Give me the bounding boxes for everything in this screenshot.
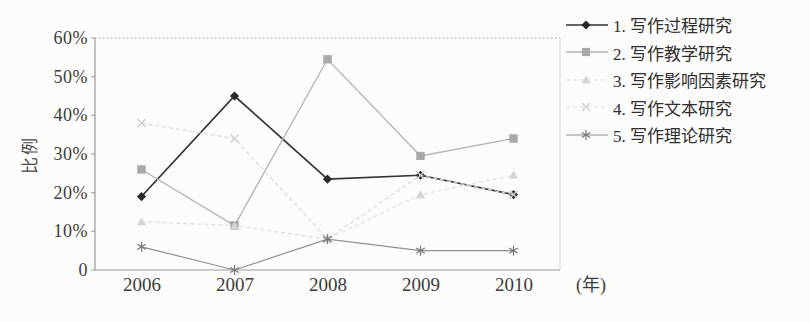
legend-item-3: 3. 写作影响因素研究 bbox=[564, 71, 810, 88]
x-tick-2008: 2008 bbox=[296, 274, 360, 296]
x-tick-2010: 2010 bbox=[482, 274, 546, 296]
y-tick-0: 0 bbox=[36, 261, 88, 279]
legend: 1. 写作过程研究 2. 写作教学研究 3. 写作影响因素研究 4. 写作文本研… bbox=[564, 16, 810, 154]
scanned-figure: 60% 50% 40% 30% 20% 10% 0 2006 2007 2008… bbox=[0, 0, 810, 322]
y-tick-40: 40% bbox=[36, 106, 88, 124]
legend-item-2: 2. 写作教学研究 bbox=[564, 44, 810, 61]
legend-item-5: 5. 写作理论研究 bbox=[564, 126, 810, 143]
y-tick-30: 30% bbox=[36, 145, 88, 163]
y-tick-50: 50% bbox=[36, 68, 88, 86]
legend-label-5: 5. 写作理论研究 bbox=[613, 122, 732, 147]
series-2-line bbox=[138, 55, 518, 229]
legend-label-3: 3. 写作影响因素研究 bbox=[613, 67, 766, 92]
legend-marker-asterisk-icon bbox=[564, 127, 610, 143]
x-tick-2009: 2009 bbox=[389, 274, 453, 296]
series-5-line bbox=[137, 234, 518, 275]
y-axis-title: 比例 bbox=[16, 135, 36, 175]
legend-label-1: 1. 写作过程研究 bbox=[613, 12, 732, 37]
legend-label-2: 2. 写作教学研究 bbox=[613, 40, 732, 65]
legend-marker-triangle-icon bbox=[564, 72, 610, 88]
legend-marker-x-icon bbox=[564, 99, 610, 115]
series-1-line bbox=[137, 91, 518, 201]
y-tick-60: 60% bbox=[36, 29, 88, 47]
y-tick-10: 10% bbox=[36, 222, 88, 240]
legend-item-1: 1. 写作过程研究 bbox=[564, 16, 810, 33]
legend-label-4: 4. 写作文本研究 bbox=[613, 95, 732, 120]
legend-marker-square-icon bbox=[564, 44, 610, 60]
x-tick-2006: 2006 bbox=[110, 274, 174, 296]
legend-marker-diamond-icon bbox=[564, 17, 610, 33]
x-tick-2007: 2007 bbox=[203, 274, 267, 296]
legend-item-4: 4. 写作文本研究 bbox=[564, 99, 810, 116]
y-tick-20: 20% bbox=[36, 184, 88, 202]
x-axis-unit-label: (年) bbox=[576, 274, 636, 296]
